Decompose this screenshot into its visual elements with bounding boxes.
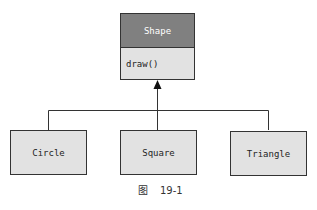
child-class-name: Triangle (247, 149, 290, 159)
method-draw: draw() (126, 59, 159, 69)
inheritance-arrowhead-icon (154, 80, 162, 89)
class-diagram: Shape draw() Circle Square Triangle 图 19… (0, 0, 317, 210)
child-class-triangle: Triangle (231, 132, 307, 176)
child-class-circle: Circle (11, 131, 87, 175)
inheritance-connectors (49, 88, 269, 130)
child-class-name: Circle (32, 148, 65, 158)
caption-number: 19-1 (160, 185, 183, 196)
parent-class-name: Shape (144, 26, 171, 36)
child-class-name: Square (142, 148, 175, 158)
figure-caption: 图 19-1 (138, 185, 183, 196)
caption-prefix: 图 (138, 185, 148, 196)
parent-class-shape: Shape draw() (121, 14, 195, 80)
child-class-square: Square (121, 131, 197, 175)
